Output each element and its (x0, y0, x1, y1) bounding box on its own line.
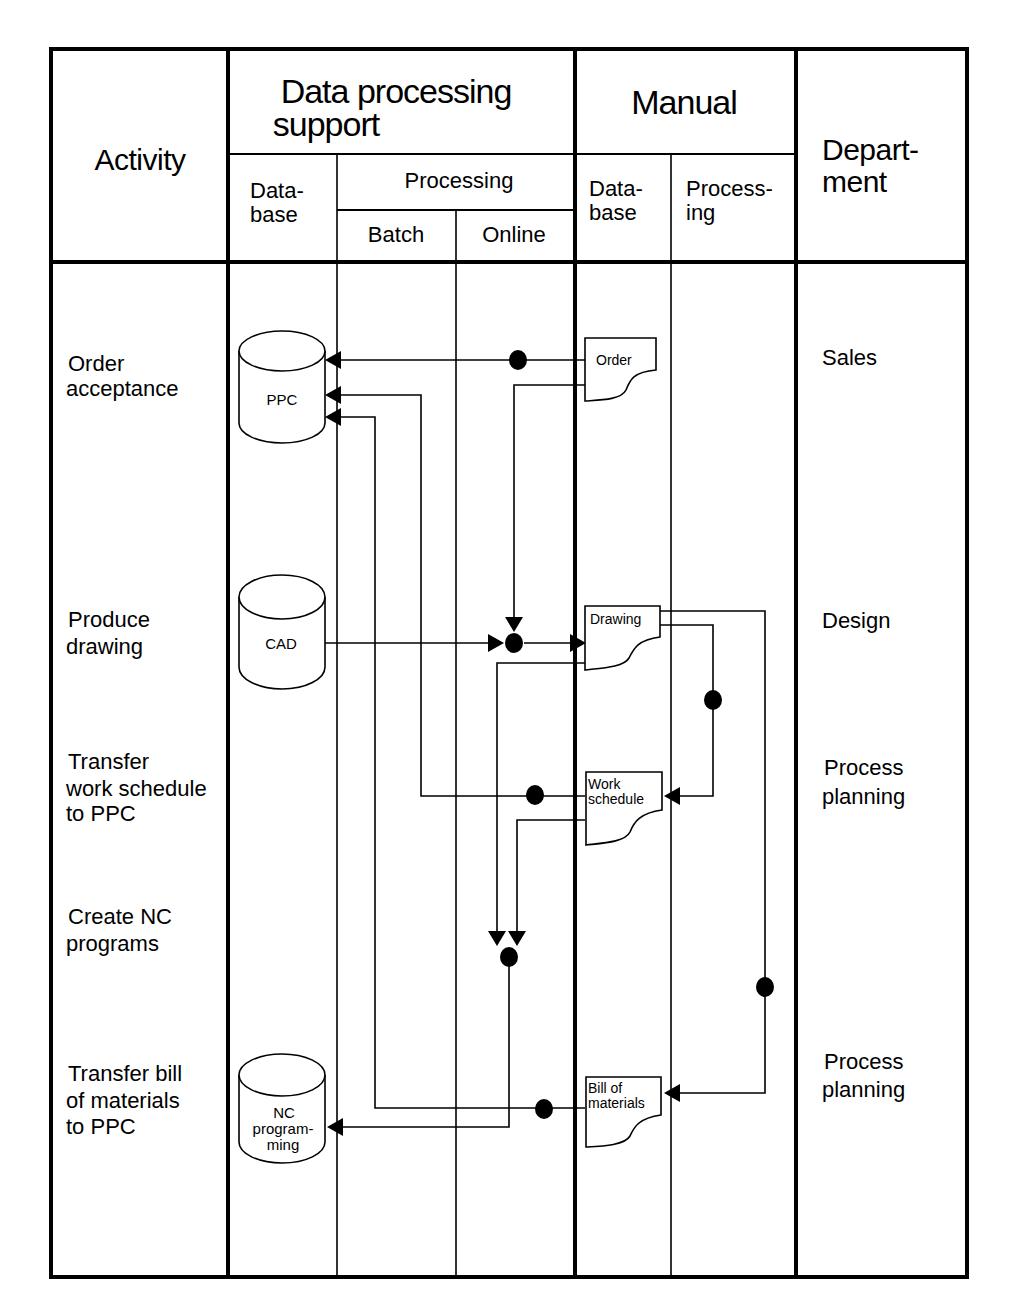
arrow-right-icon (570, 634, 586, 652)
connector-lines (325, 360, 765, 1127)
activity-produce-drawing: Produce drawing (66, 607, 150, 659)
arrow-left-icon (664, 787, 680, 805)
junction-dots (500, 350, 774, 1119)
activity-line: of materials (66, 1088, 180, 1113)
header-manual: Manual (631, 83, 737, 121)
junction-dot-icon (535, 1099, 553, 1119)
database-ppc: PPC (239, 331, 325, 443)
arrow-down-icon (488, 931, 506, 946)
activity-line: to PPC (66, 801, 136, 826)
activity-line: Transfer bill (68, 1061, 182, 1086)
database-label: PPC (267, 391, 298, 408)
department-process-planning: Process (824, 1049, 903, 1074)
activity-line: Order (68, 351, 124, 376)
database-cad: CAD (239, 575, 325, 689)
header-online: Online (482, 222, 546, 247)
activity-line: drawing (66, 634, 143, 659)
database-label: NC (273, 1104, 295, 1121)
arrow-down-icon (505, 617, 523, 632)
junction-dot-icon (756, 977, 774, 997)
database-nc-programming: NC program- ming (239, 1054, 325, 1163)
activity-line: acceptance (66, 376, 179, 401)
activity-line: work schedule (65, 776, 207, 801)
activity-line: programs (66, 931, 159, 956)
document-label: schedule (588, 791, 644, 807)
activity-transfer-bill-of-materials: Transfer bill of materials to PPC (66, 1061, 182, 1139)
header-manual-processing-line1: Process- (686, 176, 773, 201)
header-batch: Batch (368, 222, 424, 247)
database-label: program- (253, 1120, 314, 1137)
document-label: Work (588, 776, 621, 792)
junction-dot-icon (704, 690, 722, 710)
document-label: Drawing (590, 611, 641, 627)
junction-dot-icon (500, 947, 518, 967)
header-department-line1: Depart- (822, 133, 919, 166)
department-process-planning: Process (824, 755, 903, 780)
document-label: Order (596, 352, 632, 368)
database-label: ming (267, 1136, 300, 1153)
activity-transfer-work-schedule: Transfer work schedule to PPC (65, 749, 207, 826)
arrow-down-icon (508, 931, 526, 946)
header-dp-database-line1: Data- (250, 178, 304, 203)
activity-order-acceptance: Order acceptance (66, 351, 179, 401)
junction-dot-icon (526, 785, 544, 805)
header-dp-database-line2: base (250, 202, 298, 227)
activity-line: Transfer (68, 749, 149, 774)
header-manual-processing-line2: ing (686, 200, 715, 225)
arrow-left-icon (325, 386, 341, 404)
department-sales: Sales (822, 345, 877, 370)
header-department-line2: ment (822, 165, 888, 198)
document-icon (585, 338, 656, 401)
department-column: Sales Design Process planning Process pl… (822, 345, 905, 1102)
document-drawing: Drawing (585, 606, 660, 670)
department-process-planning: planning (822, 784, 905, 809)
document-work-schedule: Work schedule (586, 772, 662, 845)
document-label: Bill of (588, 1080, 622, 1096)
arrow-left-icon (325, 351, 341, 369)
header-activity: Activity (94, 143, 186, 176)
arrow-left-icon (327, 1118, 343, 1136)
document-bill-of-materials: Bill of materials (586, 1077, 661, 1147)
department-process-planning: planning (822, 1077, 905, 1102)
junction-dot-icon (505, 633, 523, 653)
junction-dot-icon (509, 350, 527, 370)
arrow-right-icon (488, 634, 504, 652)
process-flow-diagram: Activity Data processing support Data- b… (0, 0, 1012, 1312)
activity-line: Produce (68, 607, 150, 632)
activity-line: to PPC (66, 1114, 136, 1139)
arrowheads (325, 351, 680, 1136)
activity-line: Create NC (68, 904, 172, 929)
header-processing: Processing (405, 168, 514, 193)
document-order: Order (585, 338, 656, 401)
header-manual-database-line2: base (589, 200, 637, 225)
arrow-left-icon (664, 1084, 680, 1102)
header-dp-support-line2: support (273, 105, 381, 143)
header-manual-database-line1: Data- (589, 176, 643, 201)
activity-column: Order acceptance Produce drawing Transfe… (65, 351, 207, 1139)
arrow-left-icon (325, 408, 341, 426)
department-design: Design (822, 608, 890, 633)
activity-create-nc-programs: Create NC programs (66, 904, 172, 956)
document-label: materials (588, 1095, 645, 1111)
database-label: CAD (265, 635, 297, 652)
